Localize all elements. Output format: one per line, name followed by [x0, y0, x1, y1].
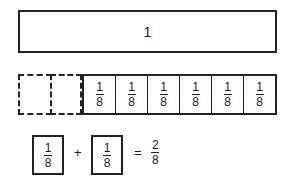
denominator: 8: [256, 96, 263, 108]
whole-label: 1: [144, 24, 152, 40]
result-fraction: 2 8: [151, 139, 160, 166]
eighth-cell: 1 8: [147, 76, 179, 113]
addend-box-2: 1 8: [91, 135, 123, 175]
missing-eighth-slot-1: [18, 74, 52, 115]
plus-sign: +: [74, 145, 82, 160]
fraction: 1 8: [44, 142, 53, 169]
eighth-cell: 1 8: [84, 76, 115, 113]
fraction: 1 8: [95, 81, 104, 108]
fraction: 1 8: [191, 81, 200, 108]
addend-box-1: 1 8: [32, 135, 64, 175]
numerator: 1: [44, 142, 53, 154]
eighth-cell: 1 8: [115, 76, 147, 113]
numerator: 1: [103, 142, 112, 154]
numerator: 2: [151, 139, 160, 151]
denominator: 8: [192, 96, 199, 108]
denominator: 8: [152, 154, 159, 166]
fraction: 1 8: [103, 142, 112, 169]
fraction: 1 8: [223, 81, 232, 108]
fraction: 1 8: [127, 81, 136, 108]
whole-bar: 1: [18, 10, 277, 53]
denominator: 8: [45, 157, 52, 169]
eighth-cell: 1 8: [243, 76, 275, 113]
equals-sign: =: [134, 145, 142, 160]
fraction: 1 8: [255, 81, 264, 108]
numerator: 1: [223, 81, 232, 93]
denominator: 8: [104, 157, 111, 169]
eighth-cell: 1 8: [179, 76, 211, 113]
numerator: 1: [127, 81, 136, 93]
denominator: 8: [128, 96, 135, 108]
numerator: 1: [95, 81, 104, 93]
eighth-cell: 1 8: [211, 76, 243, 113]
denominator: 8: [224, 96, 231, 108]
denominator: 8: [160, 96, 167, 108]
denominator: 8: [96, 96, 103, 108]
fraction: 1 8: [159, 81, 168, 108]
missing-eighth-slot-2: [50, 74, 82, 115]
numerator: 1: [255, 81, 264, 93]
numerator: 1: [159, 81, 168, 93]
eighths-strip: 1 8 1 8 1 8 1 8 1 8 1: [82, 74, 277, 115]
numerator: 1: [191, 81, 200, 93]
